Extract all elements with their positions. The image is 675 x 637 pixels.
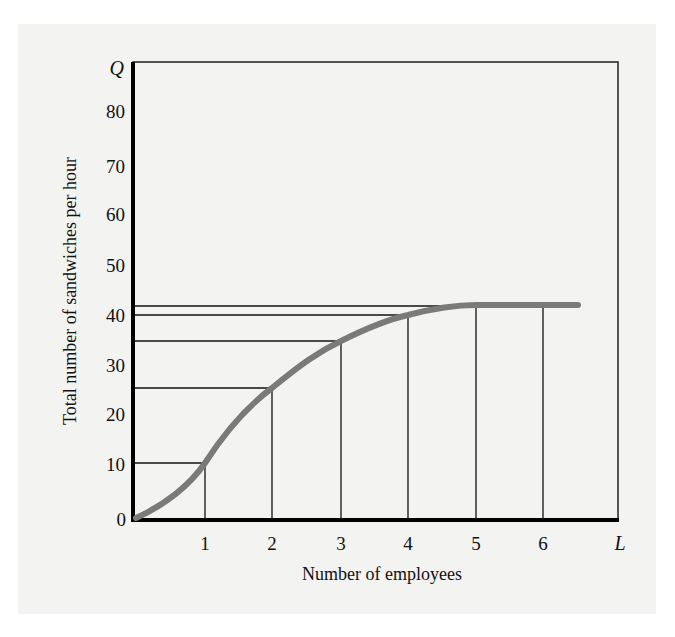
y-tick-50: 50 bbox=[106, 255, 125, 276]
y-tick-60: 60 bbox=[106, 204, 125, 225]
x-tick-2: 2 bbox=[267, 533, 277, 554]
y-tick-80: 80 bbox=[106, 101, 125, 122]
y-tick-20: 20 bbox=[106, 404, 125, 425]
y-tick-30: 30 bbox=[106, 355, 125, 376]
x-tick-4: 4 bbox=[403, 533, 413, 554]
y-axis-symbol: Q bbox=[110, 57, 125, 79]
plot-frame bbox=[133, 62, 618, 520]
y-axis-title: Total number of sandwiches per hour bbox=[60, 157, 80, 425]
origin-label: 0 bbox=[117, 509, 127, 530]
y-tick-70: 70 bbox=[106, 156, 125, 177]
total-product-curve bbox=[136, 305, 578, 518]
x-tick-3: 3 bbox=[336, 533, 346, 554]
y-tick-10: 10 bbox=[106, 454, 125, 475]
x-axis-symbol: L bbox=[613, 532, 625, 554]
production-function-chart: Q 80 70 60 50 40 30 20 10 0 1 2 3 4 5 6 … bbox=[0, 0, 675, 637]
x-tick-5: 5 bbox=[471, 533, 481, 554]
x-tick-1: 1 bbox=[200, 533, 210, 554]
x-axis-title: Number of employees bbox=[302, 564, 462, 584]
y-tick-40: 40 bbox=[106, 305, 125, 326]
x-tick-6: 6 bbox=[538, 533, 548, 554]
guide-lines bbox=[135, 306, 543, 520]
